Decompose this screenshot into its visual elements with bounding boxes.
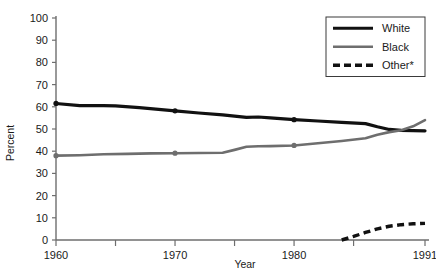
- line-chart: 0102030405060708090100 1960197019801991 …: [0, 0, 436, 277]
- y-axis-tick-label: 70: [36, 79, 48, 91]
- legend-label-black: Black: [382, 41, 409, 53]
- y-axis-tick-label: 10: [36, 212, 48, 224]
- y-axis-tick-label: 0: [42, 234, 48, 246]
- x-axis-tick-label: 1980: [282, 249, 306, 261]
- y-axis-tick-label: 30: [36, 167, 48, 179]
- x-axis-tick-label: 1960: [44, 249, 68, 261]
- data-point-marker: [291, 117, 296, 122]
- x-axis-tick-label: 1991: [413, 249, 436, 261]
- chart-legend: WhiteBlackOther*: [326, 17, 425, 77]
- data-point-marker: [53, 101, 58, 106]
- data-point-marker: [172, 151, 177, 156]
- y-axis-tick-label: 100: [30, 12, 48, 24]
- data-point-marker: [172, 108, 177, 113]
- y-axis-tick-label: 40: [36, 145, 48, 157]
- y-axis-tick-label: 20: [36, 190, 48, 202]
- y-axis-tick-label: 60: [36, 101, 48, 113]
- legend-label-white: White: [382, 22, 410, 34]
- x-axis-tick-label: 1970: [163, 249, 187, 261]
- y-axis-tick-label: 80: [36, 56, 48, 68]
- legend-label-other: Other*: [382, 59, 415, 71]
- data-point-marker: [53, 153, 58, 158]
- chart-container: 0102030405060708090100 1960197019801991 …: [0, 0, 436, 277]
- y-axis-tick-label: 90: [36, 34, 48, 46]
- x-axis-title: Year: [234, 258, 256, 270]
- data-point-marker: [291, 143, 296, 148]
- y-axis-title: Percent: [4, 125, 16, 161]
- y-axis-tick-label: 50: [36, 123, 48, 135]
